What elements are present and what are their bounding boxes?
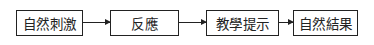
node-label: 自然結果: [299, 13, 353, 33]
node-teaching-prompt: 教學提示: [206, 10, 279, 36]
node-label: 教學提示: [216, 13, 270, 33]
node-label: 自然刺激: [23, 13, 77, 33]
arrow-prompt-to-consequence: [279, 22, 293, 23]
arrow-stimulus-to-response: [83, 22, 110, 23]
node-natural-consequence: 自然結果: [293, 10, 358, 36]
node-natural-stimulus: 自然刺激: [16, 10, 83, 36]
arrow-response-to-prompt: [179, 22, 206, 23]
node-label: 反應: [131, 13, 158, 33]
node-response: 反應: [110, 10, 179, 36]
